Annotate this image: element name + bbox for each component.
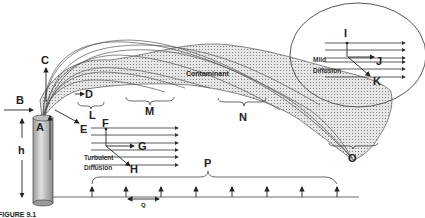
label-P: P bbox=[204, 157, 211, 169]
label-C: C bbox=[41, 54, 49, 66]
label-B: B bbox=[16, 94, 24, 106]
ground-receptors bbox=[53, 187, 359, 197]
label-N: N bbox=[239, 111, 247, 123]
brace-M bbox=[126, 97, 174, 105]
label-E: E bbox=[80, 123, 87, 135]
plume-label: Contaminant bbox=[186, 70, 229, 77]
mild-label: Mild bbox=[313, 56, 326, 63]
label-L: L bbox=[89, 109, 96, 121]
turbulent-label: Turbulent bbox=[84, 154, 114, 161]
brace-L bbox=[78, 102, 104, 109]
label-Q: Q bbox=[141, 202, 146, 208]
label-K: K bbox=[373, 75, 381, 87]
label-h: h bbox=[18, 144, 25, 156]
label-H: H bbox=[130, 163, 138, 175]
brace-P bbox=[92, 171, 337, 184]
diffusion-label-turbulent: Diffusion bbox=[84, 164, 112, 171]
label-J: J bbox=[376, 55, 382, 67]
label-M: M bbox=[145, 105, 154, 117]
label-D: D bbox=[85, 88, 93, 100]
label-F: F bbox=[102, 117, 109, 129]
label-A: A bbox=[36, 121, 44, 133]
label-O: O bbox=[348, 152, 357, 164]
figure-caption: FIGURE 9.1 bbox=[0, 211, 36, 218]
diffusion-label-mild: Diffusion bbox=[313, 67, 341, 74]
label-G: G bbox=[138, 140, 147, 152]
label-I: I bbox=[344, 27, 347, 39]
plume-dispersion-diagram: Contaminant A h B C D E L M N O bbox=[0, 0, 425, 218]
arrow-E bbox=[55, 110, 79, 123]
